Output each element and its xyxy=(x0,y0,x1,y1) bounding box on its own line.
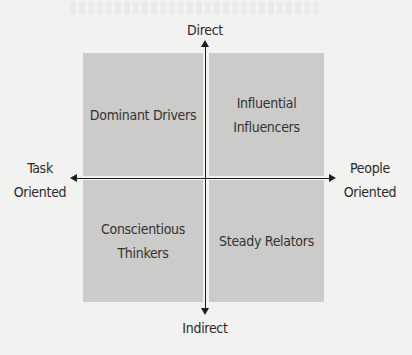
quadrant-influential-influencers: Influential Influencers xyxy=(209,53,324,176)
quadrant-conscientious-thinkers: Conscientious Thinkers xyxy=(83,180,203,302)
axis-label-people-oriented: People Oriented xyxy=(335,156,405,204)
axis-label-task-oriented: Task Oriented xyxy=(10,156,70,204)
quadrant-label: Conscientious Thinkers xyxy=(101,217,185,265)
quadrant-dominant-drivers: Dominant Drivers xyxy=(83,53,203,176)
axis-label-direct: Direct xyxy=(165,18,245,42)
arrow-down-icon xyxy=(201,308,209,315)
horizontal-axis-line xyxy=(74,178,330,180)
axis-label-indirect: Indirect xyxy=(165,316,245,340)
quadrant-label: Influential Influencers xyxy=(233,91,299,139)
background-page-bleed xyxy=(70,2,320,14)
quadrant-label: Steady Relators xyxy=(219,229,314,253)
quadrant-label: Dominant Drivers xyxy=(90,103,196,127)
arrow-left-icon xyxy=(70,174,77,182)
quadrant-steady-relators: Steady Relators xyxy=(209,180,324,302)
